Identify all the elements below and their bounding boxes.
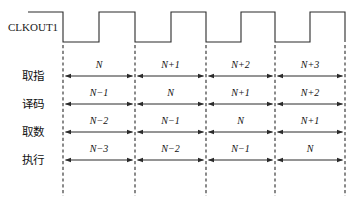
clock-signal-label: CLKOUT1 — [8, 21, 58, 33]
stage-instruction-fetch-instruction-3: N+2 — [230, 59, 249, 70]
pipeline-stage-rows: 取指NN+1N+2N+3译码N−1NN+1N+2取数N−2N−1NN+1执行N−… — [22, 59, 343, 167]
stage-decode-instruction-2: N — [166, 87, 175, 98]
stage-execute-instruction-3: N−1 — [230, 143, 249, 154]
pipeline-stage-row-instruction-fetch: 取指NN+1N+2N+3 — [22, 59, 343, 83]
stage-label-execute: 执行 — [22, 153, 44, 167]
pipeline-timing-diagram: CLKOUT1 取指NN+1N+2N+3译码N−1NN+1N+2取数N−2N−1… — [0, 0, 355, 203]
clock-waveform — [28, 12, 345, 42]
stage-decode-instruction-1: N−1 — [89, 87, 108, 98]
stage-operand-fetch-instruction-3: N — [236, 115, 245, 126]
stage-label-operand-fetch: 取数 — [22, 125, 45, 139]
pipeline-stage-row-operand-fetch: 取数N−2N−1NN+1 — [22, 115, 343, 139]
stage-instruction-fetch-instruction-2: N+1 — [160, 59, 179, 70]
stage-execute-instruction-4: N — [306, 143, 315, 154]
stage-label-decode: 译码 — [22, 97, 44, 111]
diagram-canvas: CLKOUT1 取指NN+1N+2N+3译码N−1NN+1N+2取数N−2N−1… — [0, 0, 355, 203]
stage-decode-instruction-4: N+2 — [300, 87, 319, 98]
stage-decode-instruction-3: N+1 — [230, 87, 249, 98]
stage-operand-fetch-instruction-4: N+1 — [300, 115, 319, 126]
stage-label-instruction-fetch: 取指 — [22, 69, 44, 83]
stage-operand-fetch-instruction-2: N−1 — [160, 115, 179, 126]
stage-execute-instruction-1: N−3 — [89, 143, 108, 154]
stage-instruction-fetch-instruction-4: N+3 — [300, 59, 319, 70]
pipeline-stage-row-decode: 译码N−1NN+1N+2 — [22, 87, 343, 111]
stage-execute-instruction-2: N−2 — [160, 143, 179, 154]
stage-instruction-fetch-instruction-1: N — [95, 59, 104, 70]
clock-signal-group: CLKOUT1 — [8, 12, 345, 42]
stage-operand-fetch-instruction-1: N−2 — [89, 115, 108, 126]
pipeline-stage-row-execute: 执行N−3N−2N−1N — [22, 143, 343, 167]
